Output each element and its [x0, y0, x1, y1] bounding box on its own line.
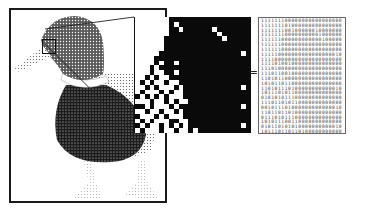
binary-matrix-panel: 111111100000000000000000 111111101000000… — [258, 17, 346, 134]
pixel-grid — [135, 17, 251, 133]
equals-sign: = — [248, 66, 258, 78]
binary-matrix-text: 111111100000000000000000 111111101000000… — [259, 18, 345, 134]
magnified-pixel-panel — [134, 17, 250, 133]
pixel — [246, 128, 251, 133]
